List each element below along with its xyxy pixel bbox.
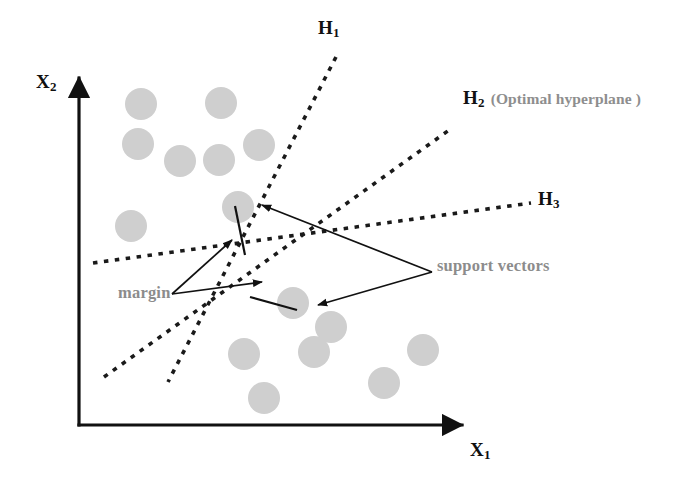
diagram-canvas	[0, 0, 694, 480]
hyperplane-h2-label-group: H2	[463, 88, 485, 109]
data-point	[205, 87, 237, 119]
data-point	[407, 334, 439, 366]
data-point	[125, 88, 157, 120]
hyperplane-h2-note: (Optimal hyperplane )	[491, 91, 641, 107]
x-axis-label: X1	[470, 440, 491, 461]
support-vector-leader-arrow	[262, 205, 432, 272]
data-points-class-a	[115, 87, 275, 242]
hyperplane-label-h3: H3	[538, 189, 560, 210]
x-axis-label-text: X	[470, 439, 484, 460]
hyperplane-h3-text: H	[538, 188, 553, 209]
hyperplane-label-h2: H2 (Optimal hyperplane )	[463, 88, 641, 109]
data-points-class-b	[228, 287, 439, 414]
svm-diagram-figure: X2 X1 H1 H2 (Optimal hyperplane ) H3 mar…	[0, 0, 694, 480]
hyperplane-line-h1	[168, 57, 336, 382]
margin-annotation-label: margin	[118, 285, 171, 302]
data-point	[248, 382, 280, 414]
hyperplane-label-h1: H1	[318, 18, 340, 39]
data-point	[203, 144, 235, 176]
support-vectors-annotation-label: support vectors	[437, 258, 550, 275]
data-point	[277, 287, 309, 319]
hyperplane-line-h3	[93, 203, 531, 263]
y-axis-label: X2	[36, 72, 57, 93]
data-point	[298, 336, 330, 368]
data-point	[243, 129, 275, 161]
data-point	[368, 367, 400, 399]
data-point	[164, 145, 196, 177]
hyperplane-h2-subscript: 2	[478, 95, 485, 110]
hyperplane-h1-text: H	[318, 17, 333, 38]
data-point	[122, 128, 154, 160]
support-vector-leader-arrow	[318, 272, 432, 305]
data-point	[228, 338, 260, 370]
hyperplane-h1-subscript: 1	[333, 25, 340, 40]
data-point	[115, 210, 147, 242]
hyperplane-h3-subscript: 3	[553, 196, 560, 211]
y-axis-label-subscript: 2	[50, 79, 57, 94]
hyperplane-h2-text: H	[463, 87, 478, 108]
x-axis-label-subscript: 1	[484, 447, 491, 462]
y-axis-label-text: X	[36, 71, 50, 92]
